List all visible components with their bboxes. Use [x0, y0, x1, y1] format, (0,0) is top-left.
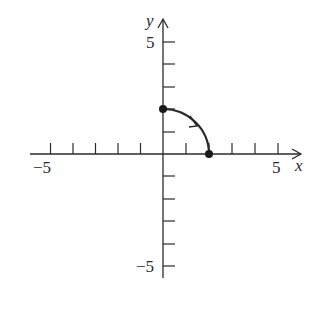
coordinate-plot: y 5 −5 −5 5 x: [0, 0, 323, 317]
x-axis-label: x: [294, 156, 303, 175]
y-tick-label-5: 5: [146, 33, 155, 52]
start-point: [159, 105, 167, 113]
end-point: [205, 150, 213, 158]
x-tick-label-5: 5: [272, 158, 281, 177]
y-tick-label-neg5: −5: [136, 257, 154, 276]
x-ticks: [51, 143, 279, 154]
x-tick-label-neg5: −5: [33, 158, 51, 177]
y-axis-label: y: [144, 11, 154, 30]
